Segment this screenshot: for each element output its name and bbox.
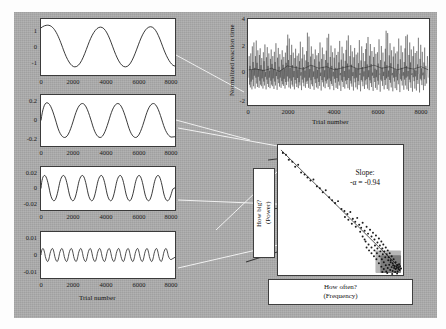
rt-ytick-neg2: -2 — [231, 98, 245, 105]
sine-2-xtick-8000: 8000 — [159, 150, 183, 157]
figure-root: 1 0 -1 0 2000 4000 6000 8000 0.2 0 -0.2 … — [0, 0, 446, 329]
rt-ytick-4: 4 — [233, 16, 245, 23]
frequency-axis-label-box: How often? (Frequency) — [268, 279, 413, 305]
sine-3-ytick-neg: -0.02 — [8, 201, 37, 208]
power-spectrum-panel — [277, 144, 404, 276]
sine-1-xtick-6000: 6000 — [127, 79, 151, 86]
sine-1-ytick-neg1: -1 — [20, 60, 37, 67]
sine-3-xtick-4000: 4000 — [94, 214, 118, 221]
rt-ytick-0: 0 — [233, 69, 245, 76]
sine-component-2-panel — [40, 94, 176, 147]
sine-2-ytick-pos: 0.2 — [16, 98, 37, 105]
sine-2-xtick-6000: 6000 — [127, 150, 151, 157]
normalized-reaction-time-panel — [247, 18, 430, 106]
sine-component-3-panel — [40, 166, 176, 211]
sine-component-4-plot — [41, 232, 175, 278]
sine-2-ytick-0: 0 — [22, 117, 37, 124]
slope-annotation: Slope: -α = -0.94 — [330, 168, 400, 188]
sine-4-xtick-8000: 8000 — [159, 282, 183, 289]
slope-annotation-line1: Slope: — [330, 168, 400, 178]
sine-1-xtick-2000: 2000 — [61, 79, 85, 86]
sine-component-2-plot — [41, 95, 175, 146]
rt-xtick-6000: 6000 — [366, 109, 390, 116]
rt-xtick-4000: 4000 — [322, 109, 346, 116]
sine-1-ytick-1: 1 — [22, 28, 37, 35]
sine-4-ytick-neg: -0.01 — [8, 269, 37, 276]
sine-component-4-panel — [40, 231, 176, 279]
sine-1-ytick-0: 0 — [22, 44, 37, 51]
sine-2-xtick-2000: 2000 — [61, 150, 85, 157]
power-spectrum-plot — [278, 145, 403, 275]
sine-4-xtick-2000: 2000 — [61, 282, 85, 289]
rt-xtick-2000: 2000 — [276, 109, 300, 116]
slope-annotation-line2: -α = -0.94 — [330, 178, 400, 188]
sine-component-3-plot — [41, 167, 175, 210]
sine-2-xtick-4000: 4000 — [94, 150, 118, 157]
left-column-xaxis-label: Trial number — [79, 294, 116, 302]
sine-1-xtick-8000: 8000 — [159, 79, 183, 86]
sine-component-1-panel — [40, 18, 176, 76]
sine-3-ytick-0: 0 — [22, 185, 37, 192]
sine-4-ytick-0: 0 — [22, 252, 37, 259]
sine-3-xtick-6000: 6000 — [127, 214, 151, 221]
power-axis-label-box: How big? (Power) — [253, 168, 275, 258]
power-axis-label: How big? (Power) — [255, 199, 273, 226]
sine-3-xtick-8000: 8000 — [159, 214, 183, 221]
sine-1-xtick-4000: 4000 — [94, 79, 118, 86]
rt-ytick-2: 2 — [233, 43, 245, 50]
sine-2-ytick-neg: -0.2 — [14, 136, 37, 143]
frequency-axis-label-line2: (Frequency) — [323, 292, 357, 301]
sine-3-xtick-0: 0 — [34, 214, 48, 221]
power-axis-label-line1: How big? — [255, 199, 263, 226]
sine-4-xtick-0: 0 — [34, 282, 48, 289]
rt-xtick-0: 0 — [241, 109, 255, 116]
sine-component-1-plot — [41, 19, 175, 75]
sine-3-ytick-pos: 0.02 — [10, 170, 37, 177]
sine-2-xtick-0: 0 — [34, 150, 48, 157]
power-axis-label-line2: (Power) — [264, 202, 272, 225]
sine-3-xtick-2000: 2000 — [61, 214, 85, 221]
sine-1-xtick-0: 0 — [34, 79, 48, 86]
rt-xtick-8000: 8000 — [409, 109, 433, 116]
reaction-time-plot — [248, 19, 429, 105]
sine-4-xtick-6000: 6000 — [127, 282, 151, 289]
sine-4-ytick-pos: 0.01 — [10, 235, 37, 242]
sine-4-xtick-4000: 4000 — [94, 282, 118, 289]
frequency-axis-label-line1: How often? — [323, 283, 357, 292]
reaction-time-yaxis-label: Normalized reaction time — [228, 24, 236, 96]
reaction-time-xaxis-label: Trial number — [312, 118, 349, 126]
